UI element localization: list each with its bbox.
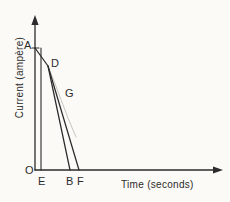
figure-canvas xyxy=(0,0,230,202)
y-axis-arrowhead-icon xyxy=(31,15,38,25)
decay-line-d-b xyxy=(48,66,70,170)
y-axis-title: Current (ampère) xyxy=(14,23,25,133)
point-label-d: D xyxy=(51,58,59,69)
point-label-b: B xyxy=(66,176,74,187)
point-label-e: E xyxy=(38,176,46,187)
x-axis-arrowhead-icon xyxy=(213,166,223,173)
point-label-a: A xyxy=(24,40,32,51)
x-axis-title: Time (seconds) xyxy=(121,179,194,190)
point-label-g: G xyxy=(65,88,74,99)
current-vs-time-figure: A D G O E B F Time (seconds) Current (am… xyxy=(0,0,230,202)
origin-label-o: O xyxy=(25,165,34,176)
point-label-f: F xyxy=(77,176,84,187)
faint-decay-curve-through-g xyxy=(48,66,76,137)
